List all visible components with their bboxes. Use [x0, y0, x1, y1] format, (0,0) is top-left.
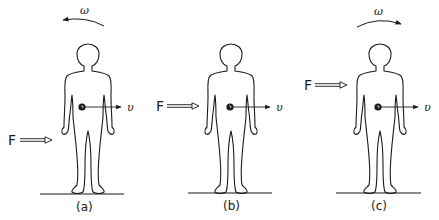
- human-figure-outline: [62, 44, 114, 194]
- omega-label: ω: [80, 4, 89, 17]
- force-arrow-icon: [20, 137, 52, 143]
- force-label: F: [8, 132, 16, 148]
- omega-label: ω: [374, 5, 383, 18]
- force-arrow-icon: [167, 103, 199, 109]
- panel-caption: (a): [76, 200, 93, 214]
- panel-a: ω υ F (a): [8, 4, 134, 214]
- human-figure-outline: [354, 44, 406, 194]
- center-of-mass-dot: [226, 103, 233, 110]
- angular-velocity-arrow-right-icon: [357, 21, 401, 27]
- center-of-mass-dot: [374, 103, 381, 110]
- panel-c: ω υ F (c): [304, 5, 431, 213]
- panel-caption: (b): [223, 199, 240, 213]
- force-arrow-icon: [315, 82, 347, 88]
- angular-velocity-arrow-left-icon: [63, 19, 104, 26]
- panel-caption: (c): [371, 199, 387, 213]
- diagram-canvas: ω υ F (a) υ F (b) ω υ F: [0, 0, 439, 220]
- center-of-mass-dot: [78, 103, 85, 110]
- panel-b: υ F (b): [156, 44, 283, 213]
- velocity-label: υ: [127, 101, 134, 114]
- force-label: F: [304, 77, 312, 93]
- velocity-label: υ: [424, 101, 431, 114]
- velocity-label: υ: [276, 101, 283, 114]
- force-label: F: [156, 98, 164, 114]
- human-figure-outline: [205, 44, 257, 194]
